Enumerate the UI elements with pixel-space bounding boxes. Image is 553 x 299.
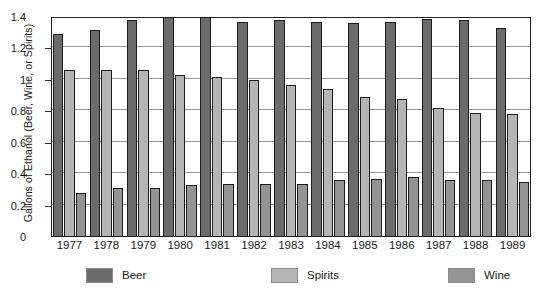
x-axis-labels: 1977197819791980198119821983198419851986… — [51, 239, 531, 257]
bar-beer-1979 — [127, 20, 138, 237]
y-tick-label: 1.4 — [0, 11, 26, 23]
legend-label-wine: Wine — [484, 269, 510, 281]
x-tick-label-1978: 1978 — [94, 239, 120, 251]
chart-legend: Beer Spirits Wine — [0, 266, 553, 290]
y-tick-label: 1.2 — [0, 42, 26, 54]
x-tick-label-1981: 1981 — [204, 239, 230, 251]
bar-beer-1981 — [200, 17, 211, 237]
bar-spirits-1977 — [64, 70, 75, 237]
bar-beer-1983 — [274, 20, 285, 237]
x-tick-label-1987: 1987 — [426, 239, 452, 251]
legend-label-beer: Beer — [122, 269, 146, 281]
bar-wine-1981 — [223, 184, 234, 237]
bars-layer — [51, 17, 531, 237]
bar-spirits-1983 — [286, 85, 297, 237]
bar-beer-1980 — [163, 17, 174, 237]
bar-spirits-1980 — [175, 75, 186, 237]
y-tick-label: 0.8 — [0, 105, 26, 117]
bar-wine-1982 — [260, 184, 271, 237]
x-tick-label-1983: 1983 — [278, 239, 304, 251]
x-tick-label-1982: 1982 — [241, 239, 267, 251]
bar-beer-1988 — [459, 20, 470, 237]
bar-wine-1984 — [334, 180, 345, 237]
legend-entry-beer[interactable]: Beer — [86, 266, 146, 284]
y-tick-label: 0.6 — [0, 137, 26, 149]
bar-spirits-1981 — [212, 77, 223, 237]
y-tick-label: 1 — [0, 74, 26, 86]
x-tick-label-1984: 1984 — [315, 239, 341, 251]
legend-entry-wine[interactable]: Wine — [448, 266, 510, 284]
bar-spirits-1985 — [360, 97, 371, 237]
bar-wine-1977 — [76, 193, 87, 237]
bar-beer-1989 — [496, 28, 507, 237]
bar-beer-1987 — [422, 19, 433, 237]
bar-spirits-1988 — [470, 113, 481, 237]
x-tick-label-1980: 1980 — [167, 239, 193, 251]
bar-beer-1977 — [53, 34, 64, 237]
x-tick-label-1985: 1985 — [352, 239, 378, 251]
x-tick-label-1989: 1989 — [500, 239, 526, 251]
bar-beer-1978 — [90, 30, 101, 237]
x-tick-label-1986: 1986 — [389, 239, 415, 251]
bar-spirits-1986 — [397, 99, 408, 237]
bar-spirits-1979 — [138, 70, 149, 237]
bar-spirits-1989 — [507, 114, 518, 237]
y-tick-label: 0 — [0, 231, 26, 243]
legend-swatch-wine — [448, 268, 475, 283]
legend-swatch-beer — [86, 268, 113, 283]
legend-entry-spirits[interactable]: Spirits — [271, 266, 339, 284]
bar-spirits-1987 — [433, 108, 444, 237]
bar-wine-1978 — [113, 188, 124, 237]
bar-wine-1979 — [150, 188, 161, 237]
x-tick-label-1979: 1979 — [131, 239, 157, 251]
bar-wine-1987 — [445, 180, 456, 237]
bar-beer-1984 — [311, 22, 322, 237]
bar-beer-1985 — [348, 23, 359, 237]
bar-spirits-1984 — [323, 89, 334, 237]
y-tick-label: 0.2 — [0, 200, 26, 212]
bar-wine-1988 — [482, 180, 493, 237]
bar-beer-1982 — [237, 22, 248, 237]
y-tick-label: 0.4 — [0, 168, 26, 180]
bar-wine-1985 — [371, 179, 382, 237]
bar-spirits-1978 — [101, 70, 112, 237]
bar-wine-1989 — [519, 182, 530, 237]
x-tick-label-1977: 1977 — [57, 239, 83, 251]
bar-wine-1983 — [297, 184, 308, 237]
bar-beer-1986 — [385, 22, 396, 237]
x-tick-label-1988: 1988 — [463, 239, 489, 251]
bar-chart-figure: Gallons of Ethanol (Beer, Wine, or Spiri… — [0, 0, 553, 299]
legend-label-spirits: Spirits — [307, 269, 339, 281]
legend-swatch-spirits — [271, 268, 298, 283]
bar-spirits-1982 — [249, 80, 260, 237]
bar-wine-1980 — [186, 185, 197, 237]
bar-wine-1986 — [408, 177, 419, 237]
